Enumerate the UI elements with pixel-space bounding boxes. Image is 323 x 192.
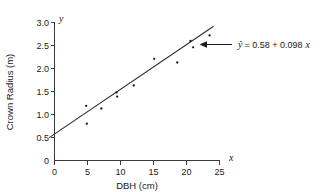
y-axis-title: Crown Radius (m) <box>4 54 15 131</box>
data-point <box>115 91 117 93</box>
x-tick-label-25: 25 <box>214 167 224 177</box>
data-point <box>133 84 135 86</box>
y-tick-label-1.5: 1.5 <box>36 87 49 97</box>
equation-body: = 0.58 + 0.098 <box>244 40 302 50</box>
data-point <box>86 123 88 125</box>
equation-callout: ŷ= 0.58 + 0.098x <box>200 39 311 50</box>
y-tick-label-0: 0 <box>44 156 49 166</box>
chart-canvas: Crown Radius (m) 3.0 2.5 2.0 1.5 1.0 0.5… <box>0 0 323 192</box>
callout-arrow-icon <box>200 41 208 47</box>
x-axis-title: DBH (cm) <box>116 180 158 191</box>
data-point <box>85 105 87 107</box>
x-axis-symbol: x <box>228 152 234 163</box>
equation-yhat-symbol: ŷ <box>237 39 243 50</box>
y-tick-label-1.0: 1.0 <box>36 110 49 120</box>
data-point <box>116 95 118 97</box>
data-point <box>153 58 155 60</box>
data-points-group <box>85 34 211 125</box>
scatter-plot-figure: Crown Radius (m) 3.0 2.5 2.0 1.5 1.0 0.5… <box>0 0 323 192</box>
equation-x-symbol: x <box>305 39 311 50</box>
x-tick-label-0: 0 <box>52 167 57 177</box>
x-tick-label-10: 10 <box>115 167 125 177</box>
x-tick-label-5: 5 <box>85 167 90 177</box>
y-tick-label-0.5: 0.5 <box>36 133 49 143</box>
data-point <box>208 34 210 36</box>
y-tick-label-2.5: 2.5 <box>36 41 49 51</box>
data-point <box>192 46 194 48</box>
x-tick-label-15: 15 <box>148 167 158 177</box>
y-tick-label-2.0: 2.0 <box>36 64 49 74</box>
y-axis-symbol: y <box>58 13 64 24</box>
regression-equation-label: ŷ= 0.58 + 0.098x <box>237 39 311 50</box>
data-point <box>176 61 178 63</box>
x-tick-label-20: 20 <box>181 167 191 177</box>
data-point <box>100 107 102 109</box>
data-point <box>189 40 191 42</box>
regression-fit-line <box>49 26 213 137</box>
y-tick-label-3.0: 3.0 <box>36 18 49 28</box>
